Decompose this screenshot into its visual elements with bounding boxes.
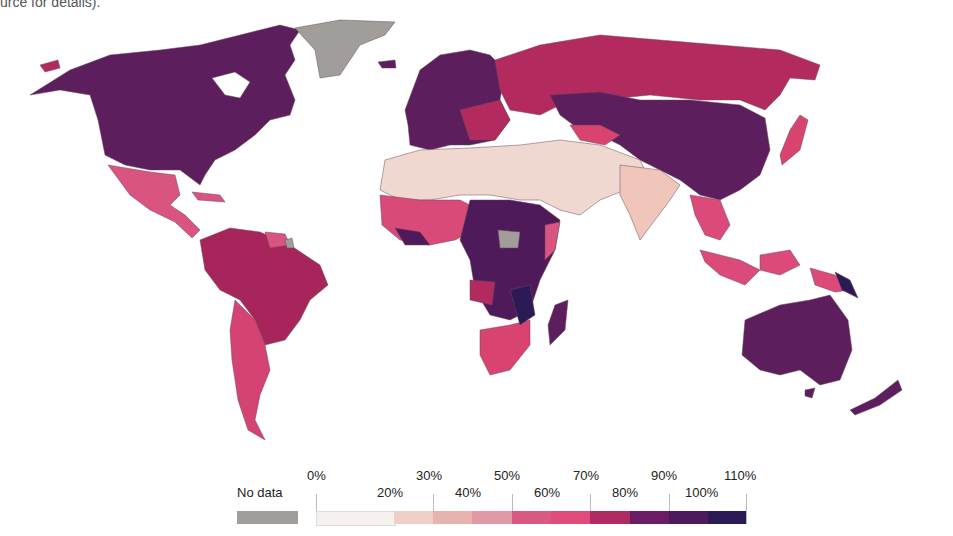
legend-swatch xyxy=(551,511,590,524)
region-new-zealand xyxy=(850,380,902,415)
region-madagascar xyxy=(548,300,568,345)
legend: No data 0% 30% 50% 70% 90% 110% 20% 40% … xyxy=(230,462,750,532)
legend-label-60: 60% xyxy=(534,485,560,500)
legend-label-40: 40% xyxy=(455,485,481,500)
legend-label-0: 0% xyxy=(307,468,326,483)
legend-label-30: 30% xyxy=(416,468,442,483)
legend-swatch xyxy=(394,511,433,524)
legend-swatch xyxy=(472,511,512,524)
region-australia xyxy=(742,295,852,385)
legend-tick xyxy=(746,494,747,524)
legend-swatch xyxy=(669,511,708,524)
legend-swatch xyxy=(433,511,472,524)
region-south-america-north xyxy=(200,228,328,345)
legend-swatch xyxy=(316,511,396,526)
legend-no-data-swatch xyxy=(237,511,298,524)
legend-swatch xyxy=(708,511,746,524)
legend-swatch xyxy=(630,511,669,524)
legend-label-20: 20% xyxy=(377,485,403,500)
legend-label-50: 50% xyxy=(494,468,520,483)
region-alaska-island xyxy=(40,60,60,72)
legend-label-100: 100% xyxy=(685,485,718,500)
legend-label-80: 80% xyxy=(612,485,638,500)
region-mexico-central-america xyxy=(108,165,200,238)
region-southeast-asia xyxy=(690,195,730,240)
world-choropleth-map xyxy=(0,0,953,460)
legend-swatch xyxy=(590,511,630,524)
region-japan xyxy=(780,115,808,165)
region-greenland xyxy=(295,20,395,78)
legend-swatch xyxy=(512,511,551,524)
region-india xyxy=(620,165,680,240)
legend-no-data-label: No data xyxy=(237,485,283,500)
region-iceland xyxy=(378,60,396,68)
region-north-america xyxy=(30,25,300,185)
legend-label-90: 90% xyxy=(651,468,677,483)
legend-label-70: 70% xyxy=(573,468,599,483)
legend-label-110: 110% xyxy=(724,468,756,483)
region-southern-africa xyxy=(480,320,530,375)
